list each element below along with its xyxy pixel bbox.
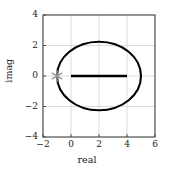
xtick-label-neg2: −2 xyxy=(34,140,52,149)
ytick-label-2: 2 xyxy=(22,41,38,50)
figure-container: 4 2 0 −2 −4 −2 0 2 4 6 real imag xyxy=(0,0,174,172)
ytick-label-0: 0 xyxy=(22,71,38,80)
xtick-label-6: 6 xyxy=(147,140,163,149)
xtick-label-0: 0 xyxy=(63,140,79,149)
xtick-label-2: 2 xyxy=(91,140,107,149)
xtick-label-4: 4 xyxy=(119,140,135,149)
ytick-label-4: 4 xyxy=(22,10,38,19)
x-axis-label: real xyxy=(0,155,174,165)
y-axis-label: imag xyxy=(4,48,14,94)
ytick-label-neg2: −2 xyxy=(20,102,38,111)
